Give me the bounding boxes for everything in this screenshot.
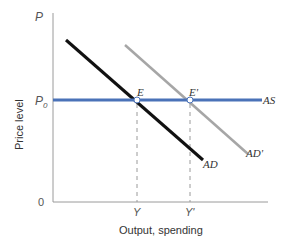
origin-label: 0	[38, 196, 44, 208]
price-level-p0: P0	[35, 94, 48, 110]
ad-label: AD	[202, 158, 218, 170]
equilibrium-label-e-prime: E'	[188, 86, 199, 98]
y-axis-title: Price level	[13, 99, 25, 150]
ad-prime-label: AD'	[245, 147, 264, 159]
ad-as-diagram: P Price level P0 0 E E' AS AD AD' Y Y' O…	[0, 0, 286, 252]
x-label-y: Y	[133, 206, 141, 218]
equilibrium-label-e: E	[136, 86, 144, 98]
x-label-y-prime: Y'	[185, 206, 195, 218]
as-label: AS	[262, 94, 276, 106]
x-axis-title: Output, spending	[119, 224, 203, 236]
y-axis-top-label: P	[35, 10, 43, 24]
